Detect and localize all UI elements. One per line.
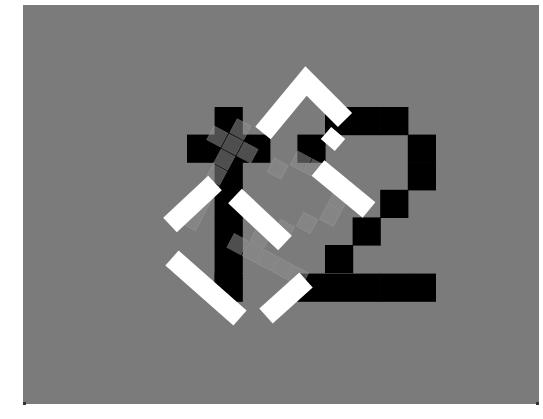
stimulus-canvas: +2 bbox=[0, 0, 543, 419]
grey-panel bbox=[23, 5, 539, 404]
glyph-pixel bbox=[325, 245, 353, 273]
glyph-pixel bbox=[353, 274, 381, 302]
stimulus-svg bbox=[0, 0, 543, 419]
corner-mark-bottom-left bbox=[23, 402, 26, 405]
glyph-pixel bbox=[380, 274, 408, 302]
glyph-pixel bbox=[408, 274, 436, 302]
glyph-pixel bbox=[380, 107, 408, 135]
glyph-pixel bbox=[325, 274, 353, 302]
glyph-pixel bbox=[353, 107, 381, 135]
glyph-pixel bbox=[380, 190, 408, 218]
glyph-pixel bbox=[353, 217, 381, 245]
corner-mark-bottom-right bbox=[536, 402, 539, 405]
glyph-pixel bbox=[408, 135, 436, 163]
glyph-pixel bbox=[408, 162, 436, 190]
upper-right-frame-small-square bbox=[326, 133, 340, 145]
